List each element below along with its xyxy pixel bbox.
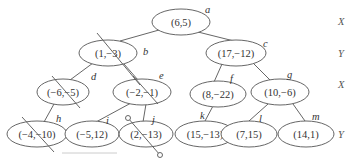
tree-node-d: (−6,−5)d [37, 71, 97, 105]
edge-c-g [254, 64, 270, 80]
node-letter-label: i [106, 115, 109, 126]
node-point-label: (8,−22) [202, 89, 234, 101]
probe-end-circle-icon [158, 153, 163, 158]
node-point-label: (6,5) [171, 17, 192, 29]
node-letter-label: g [287, 69, 292, 80]
split-axis-label: Y [338, 48, 345, 59]
tree-svg: (6,5)a(1,−3)b(17,−12)c(−6,−5)d(−2,−1)e(8… [0, 0, 353, 168]
node-point-label: (14,1) [293, 129, 319, 141]
node-letter-label: b [143, 46, 148, 57]
tree-node-f: (8,−22)f [190, 73, 246, 107]
node-point-label: (10,−6) [264, 87, 296, 99]
node-letter-label: c [263, 38, 268, 49]
split-axis-label: X [337, 16, 345, 27]
node-point-label: (−2,−1) [126, 87, 158, 99]
node-point-label: (15,−13) [187, 129, 224, 141]
node-letter-label: m [312, 111, 320, 122]
probe-start-circle-icon [126, 116, 131, 121]
edge-f-k [205, 106, 213, 121]
node-point-label: (−4,−10) [18, 129, 56, 141]
node-point-label: (7,15) [236, 129, 262, 141]
edge-e-j [143, 104, 146, 122]
node-letter-label: a [205, 4, 210, 15]
node-point-label: (−5,12) [76, 129, 108, 141]
tree-node-c: (17,−12)c [206, 38, 268, 66]
node-point-label: (17,−12) [218, 48, 255, 60]
edge-g-m [293, 104, 305, 121]
split-axis-label: Y [338, 129, 345, 140]
node-letter-label: d [91, 71, 97, 82]
node-letter-label: k [200, 110, 205, 121]
tree-node-a: (6,5)a [152, 4, 210, 35]
tree-node-m: (14,1)m [278, 111, 334, 147]
tree-node-h: (−4,−10)h [7, 113, 67, 147]
tree-node-e: (−2,−1)e [113, 70, 171, 105]
split-axis-label: X [337, 79, 345, 90]
edge-a-b [120, 30, 159, 41]
node-letter-label: f [230, 73, 235, 84]
tree-node-l: (7,15)l [221, 113, 277, 147]
kd-tree-diagram: (6,5)a(1,−3)b(17,−12)c(−6,−5)d(−2,−1)e(8… [0, 0, 353, 168]
node-letter-label: h [56, 113, 61, 124]
edge-a-c [198, 32, 234, 41]
tree-node-g: (10,−6)g [251, 69, 309, 105]
edge-d-h [44, 104, 54, 122]
edge-c-f [214, 64, 222, 82]
tree-node-i: (−5,12)i [65, 115, 119, 147]
edge-b-e [124, 64, 138, 80]
edge-b-d [70, 63, 93, 80]
node-letter-label: e [159, 70, 164, 81]
node-letter-label: l [259, 113, 262, 124]
